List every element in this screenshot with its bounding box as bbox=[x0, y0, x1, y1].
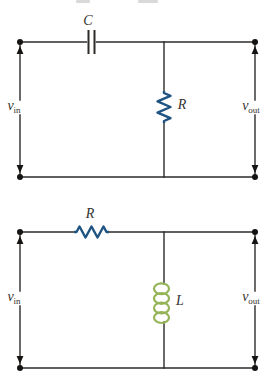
arrow-up-icon bbox=[252, 46, 259, 54]
node-dot bbox=[252, 365, 258, 371]
node-dot bbox=[252, 174, 258, 180]
node-dot bbox=[17, 174, 23, 180]
node-dot bbox=[252, 39, 258, 45]
capacitor-label: C bbox=[83, 14, 92, 28]
resistor-label: R bbox=[86, 207, 95, 221]
arrow-up-icon bbox=[252, 236, 259, 244]
vin-subscript: in bbox=[14, 296, 21, 306]
vin-label: vin bbox=[7, 99, 20, 115]
vin-label: vin bbox=[7, 290, 20, 306]
resistor-icon bbox=[158, 91, 171, 123]
inductor-label: L bbox=[176, 294, 184, 308]
node-dot bbox=[17, 39, 23, 45]
bottom-circuit-wires bbox=[20, 232, 255, 368]
vout-subscript: out bbox=[248, 296, 260, 306]
top-circuit-wires bbox=[20, 31, 255, 177]
circuit-canvas bbox=[0, 0, 275, 378]
circuit-figure: C R vin vout R L vin vout bbox=[0, 0, 275, 378]
vout-subscript: out bbox=[248, 105, 260, 115]
arrow-down-icon bbox=[252, 165, 259, 173]
arrow-up-icon bbox=[17, 236, 24, 244]
arrow-down-icon bbox=[252, 356, 259, 364]
node-dot bbox=[252, 229, 258, 235]
arrow-down-icon bbox=[17, 356, 24, 364]
bottom-circuit-nodes bbox=[17, 229, 259, 371]
node-dot bbox=[17, 229, 23, 235]
vout-label: vout bbox=[242, 290, 260, 306]
vout-label: vout bbox=[242, 99, 260, 115]
arrow-down-icon bbox=[17, 165, 24, 173]
vin-subscript: in bbox=[14, 105, 21, 115]
inductor-icon bbox=[154, 283, 169, 323]
resistor-label: R bbox=[178, 98, 187, 112]
resistor-icon bbox=[74, 227, 109, 238]
arrow-up-icon bbox=[17, 46, 24, 54]
top-circuit-nodes bbox=[17, 39, 259, 180]
node-dot bbox=[17, 365, 23, 371]
